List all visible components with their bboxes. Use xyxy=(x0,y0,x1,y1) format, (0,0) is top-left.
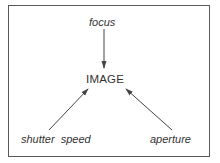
shutter-speed-label: shutter speed xyxy=(21,133,91,145)
arrow-shutter-to-image xyxy=(49,89,88,130)
image-node-label: IMAGE xyxy=(86,73,124,85)
focus-label: focus xyxy=(89,16,115,28)
arrow-aperture-to-image xyxy=(126,89,172,130)
aperture-label: aperture xyxy=(150,133,191,145)
